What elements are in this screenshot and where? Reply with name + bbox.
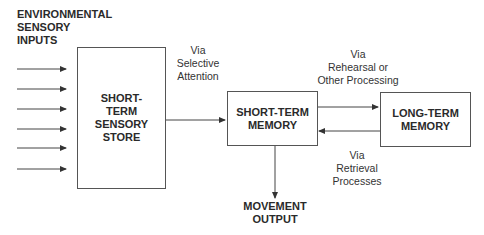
selective-attention-label: Via Selective Attention <box>168 44 228 83</box>
environmental-inputs-label: ENVIRONMENTAL SENSORY INPUTS <box>17 8 112 47</box>
long-term-memory-label: LONG-TERM MEMORY <box>392 107 459 133</box>
retrieval-label: Via Retrieval Processes <box>322 149 392 188</box>
short-term-memory-label: SHORT-TERM MEMORY <box>236 106 309 132</box>
sensory-store-label: SHORT- TERM SENSORY STORE <box>95 92 148 144</box>
movement-output-label: MOVEMENT OUTPUT <box>235 200 315 226</box>
sensory-store-box: SHORT- TERM SENSORY STORE <box>77 47 166 189</box>
rehearsal-label: Via Rehearsal or Other Processing <box>308 48 408 87</box>
long-term-memory-box: LONG-TERM MEMORY <box>380 92 471 147</box>
short-term-memory-box: SHORT-TERM MEMORY <box>227 91 318 146</box>
input-arrows <box>17 69 66 169</box>
